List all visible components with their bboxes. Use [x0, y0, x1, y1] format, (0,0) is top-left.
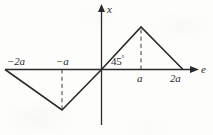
- y-axis-arrowhead-icon: [98, 4, 105, 12]
- triangular-waveform-figure: e x −2a −a a 2a 45°: [0, 0, 213, 135]
- x-axis-label: e: [201, 64, 206, 75]
- tick-label-minus-a: −a: [56, 56, 69, 67]
- degree-symbol-icon: °: [122, 54, 125, 62]
- angle-value: 45: [111, 55, 122, 67]
- y-axis-label: x: [107, 4, 112, 15]
- tick-label-two-a: 2a: [170, 73, 181, 84]
- plot-canvas: [0, 0, 213, 135]
- x-axis-arrowhead-icon: [190, 66, 199, 73]
- tick-label-minus-two-a: −2a: [7, 56, 25, 67]
- angle-annotation: 45°: [111, 56, 124, 67]
- tick-label-a: a: [137, 73, 142, 84]
- waveform-polyline: [5, 27, 183, 110]
